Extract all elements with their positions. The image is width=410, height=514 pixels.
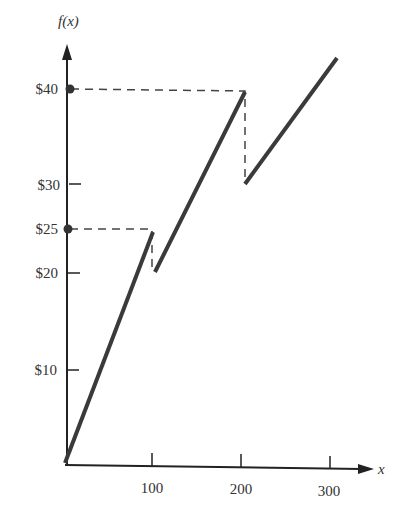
point-40 (66, 85, 75, 94)
y-label-40: $40 (36, 81, 59, 97)
x-label-200: 200 (230, 481, 253, 497)
y-label-10: $10 (35, 362, 58, 378)
guide-40 (71, 89, 245, 183)
segment-1 (65, 232, 153, 463)
y-label-20: $20 (36, 265, 59, 281)
y-label-25: $25 (36, 221, 59, 237)
y-label-30: $30 (38, 177, 61, 193)
x-label-300: 300 (318, 483, 341, 499)
x-axis-arrow-icon (358, 464, 374, 474)
segment-3 (245, 58, 337, 184)
point-25 (64, 225, 73, 234)
x-axis (65, 465, 362, 469)
x-axis-label: x (377, 461, 385, 477)
segment-2 (155, 92, 245, 272)
x-label-100: 100 (141, 480, 164, 496)
y-axis-label: f(x) (58, 13, 79, 30)
y-axis-arrow-icon (62, 44, 72, 60)
step-cost-chart: f(x) x $40 $30 $25 $20 $10 100 200 300 (0, 0, 410, 514)
